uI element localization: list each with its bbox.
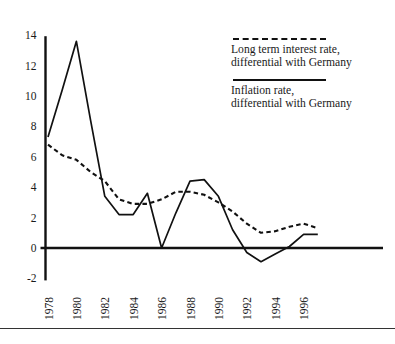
x-tick-label: 1978 (43, 297, 55, 320)
y-tick-label: -2 (27, 272, 37, 284)
x-tick-label: 1980 (71, 297, 83, 320)
y-tick-label: 2 (31, 212, 37, 224)
x-tick-label: 1994 (270, 297, 282, 320)
x-tick-label: 1982 (99, 297, 111, 320)
y-tick-label: 8 (31, 120, 37, 132)
y-tick-label: 14 (25, 29, 37, 41)
legend-entry-long-term-interest-rate: Long term interest rate, differential wi… (231, 38, 383, 70)
y-tick-label: 12 (25, 60, 37, 72)
x-tick-label: 1990 (213, 297, 225, 320)
chart-legend: Long term interest rate, differential wi… (231, 38, 383, 120)
y-tick-label: 10 (25, 90, 37, 102)
legend-label-long-term-interest-rate: Long term interest rate, differential wi… (231, 43, 383, 70)
y-axis-tick-labels: -202468101214 (25, 29, 37, 284)
bottom-horizontal-rule (0, 328, 395, 329)
x-tick-label: 1996 (298, 297, 310, 320)
dashed-line-sample (233, 38, 326, 40)
y-tick-label: 6 (31, 151, 37, 163)
y-tick-label: 0 (31, 242, 37, 254)
x-tick-label: 1986 (156, 297, 168, 320)
legend-label-inflation-rate: Inflation rate, differential with German… (231, 84, 383, 111)
x-axis-tick-labels: 1978198019821984198619881990199219941996 (43, 297, 311, 320)
solid-line-sample (233, 79, 326, 81)
y-tick-label: 4 (31, 181, 37, 193)
x-tick-label: 1992 (241, 297, 253, 320)
chart-figure: -202468101214 19781980198219841986198819… (0, 0, 395, 344)
legend-entry-inflation-rate: Inflation rate, differential with German… (231, 79, 383, 111)
x-tick-label: 1984 (128, 297, 140, 320)
x-tick-label: 1988 (185, 297, 197, 320)
series-line-long-term-interest-rate (48, 145, 318, 233)
